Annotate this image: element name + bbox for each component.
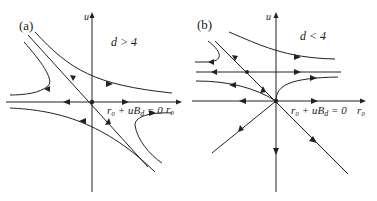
arrow-right-icon [294, 69, 301, 75]
arrow-left-icon [239, 98, 246, 104]
fixed-point-dot [274, 99, 278, 103]
fixed-point-dot [90, 100, 94, 104]
r0-axis-arrow-icon [360, 99, 366, 104]
condition-label: d > 4 [111, 35, 137, 49]
flow-upper-right [35, 32, 172, 93]
flow-lower-right [135, 113, 172, 163]
u-axis-arrow-icon [90, 12, 95, 18]
flow-upper-left [10, 42, 50, 95]
arrow-up-icon [105, 118, 111, 125]
condition-label: d < 4 [300, 29, 326, 43]
u-axis-label: u [266, 11, 271, 22]
u-axis-label: u [84, 11, 89, 22]
rg-flow-diagram: (a) u d > 4 r₀ r₀ + uBd = 0 [0, 0, 377, 201]
r0-axis-label: r₀ [357, 104, 365, 116]
arrow-left-icon [63, 99, 70, 105]
separatrix-line [28, 35, 148, 167]
u-axis-arrow-icon [274, 12, 279, 18]
fixed-line-label: r₀ + uBd = 0 [107, 104, 163, 118]
fixed-line-label: r₀ + uBd = 0 [291, 104, 347, 118]
arrow-down-icon [273, 148, 279, 155]
arrow-right-icon [294, 54, 301, 60]
r0-axis-label: r₀ [166, 103, 174, 115]
r0-axis-arrow-icon [176, 100, 182, 105]
arrow-down-icon [232, 55, 238, 61]
arrow-down-left-icon [238, 125, 244, 132]
panel-a-label: (a) [19, 18, 33, 33]
panel-b: (b) u d < 4 r₀ r₀ + uBd = 0 [192, 11, 366, 192]
arrow-down-icon [70, 75, 76, 81]
flow-right-curve [276, 77, 338, 101]
panel-a: (a) u d > 4 r₀ r₀ + uBd = 0 [6, 11, 182, 192]
arrow-left-icon [208, 59, 214, 65]
flow-lower-left-ray [212, 101, 276, 153]
flow-lower-left [10, 108, 155, 172]
arrow-left-icon [229, 82, 236, 88]
fixed-point-dot [245, 70, 249, 74]
arrow-right-icon [310, 75, 317, 81]
flow-upper-left [195, 41, 219, 62]
arrow-down-right-icon [309, 136, 317, 143]
arrow-left-icon [211, 69, 217, 75]
panel-b-label: (b) [197, 17, 212, 32]
